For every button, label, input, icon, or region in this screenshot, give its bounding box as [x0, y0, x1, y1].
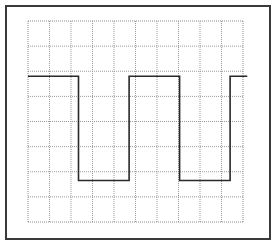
graticule-grid: [28, 21, 243, 222]
oscilloscope-display: [0, 0, 277, 245]
square-wave-trace: [28, 76, 247, 180]
waveform-trace: [28, 76, 247, 180]
